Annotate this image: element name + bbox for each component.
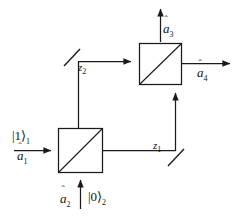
path-z2-label: z2	[78, 62, 86, 76]
path-z1-subscript: 1	[157, 145, 161, 154]
beam-splitter-2-diagonal	[140, 44, 181, 84]
input-mode-a1-subscript: 1	[24, 157, 28, 166]
diagram-canvas	[0, 0, 241, 218]
input-mode-a1-label: ˆa1	[17, 149, 28, 166]
output-mode-a3-hatted: ˆa	[163, 22, 170, 35]
mirror-z1	[168, 149, 184, 166]
hat-accent-icon: ˆ	[19, 142, 22, 152]
vacuum-mode-a2-hatted: ˆa	[60, 192, 67, 205]
output-mode-a3-label: ˆa3	[163, 22, 174, 39]
hat-accent-icon: ˆ	[165, 15, 168, 25]
interferometer-diagram: |1⟩1 ˆa1 ˆa2 |0⟩2 ˆa3 ˆa4 z2 z1	[0, 0, 241, 218]
input-mode-a1-hatted: ˆa	[17, 149, 24, 162]
input-ket-subscript: 1	[26, 137, 30, 146]
output-mode-a3-subscript: 3	[170, 30, 174, 39]
hat-accent-icon: ˆ	[199, 59, 202, 69]
vacuum-mode-a2-subscript: 2	[67, 200, 71, 209]
path-z1-label: z1	[153, 140, 161, 154]
output-mode-a4-label: ˆa4	[197, 66, 208, 83]
vacuum-ket-subscript: 2	[102, 198, 106, 207]
vacuum-ket-label: |0⟩2	[88, 190, 106, 207]
beam-splitter-1-diagonal	[59, 129, 102, 172]
hat-accent-icon: ˆ	[62, 185, 65, 195]
output-mode-a4-hatted: ˆa	[197, 66, 204, 79]
vacuum-mode-a2-label: ˆa2	[60, 192, 71, 209]
vacuum-ket-symbol: |0⟩	[88, 189, 102, 204]
path-z2-subscript: 2	[82, 67, 86, 76]
output-mode-a4-subscript: 4	[204, 74, 208, 83]
